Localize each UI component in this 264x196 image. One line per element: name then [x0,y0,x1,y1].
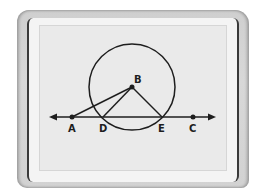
label-b: B [134,74,142,85]
point-c [191,115,196,120]
arrow-right-icon [208,114,216,121]
point-a [70,115,75,120]
label-d: D [99,123,107,134]
label-c: C [189,123,196,134]
arrow-left-icon [49,114,57,121]
segment-bd [103,87,132,117]
point-b [130,85,135,90]
geometry-diagram: A B C D E [0,0,264,196]
label-e: E [158,123,165,134]
label-a: A [68,123,76,134]
segment-be [132,87,162,117]
segment-ba [72,87,132,117]
